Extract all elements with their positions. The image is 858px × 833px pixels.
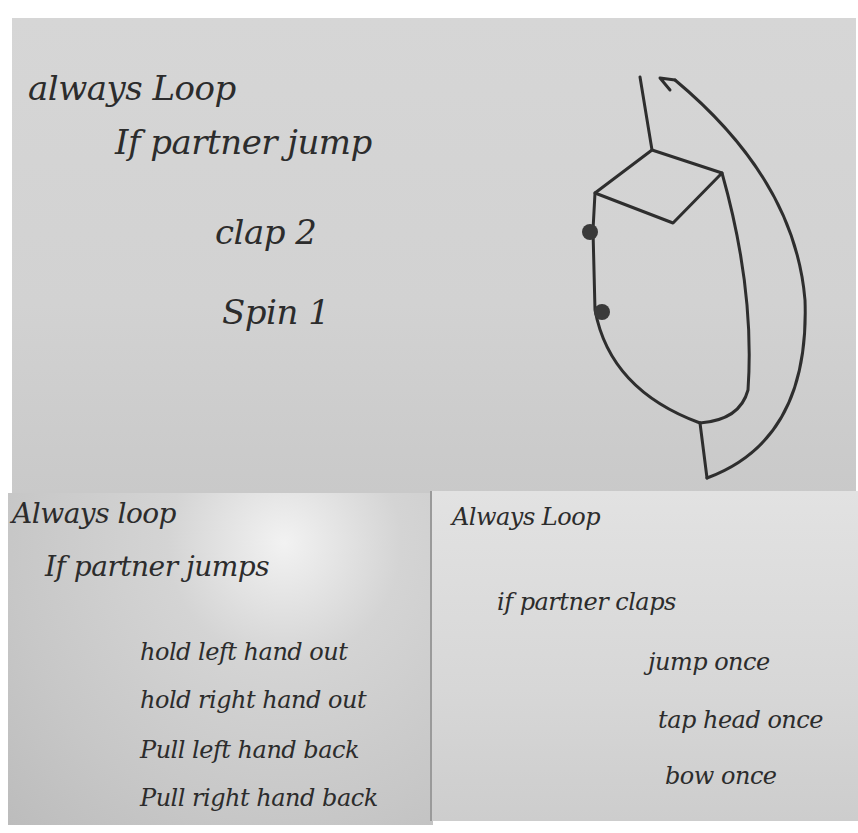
bottom-right-line-4: tap head once	[658, 706, 823, 734]
bottom-left-line-1: Always loop	[12, 497, 176, 530]
bottom-right-line-5: bow once	[665, 762, 777, 790]
bottom-left-line-6: Pull right hand back	[140, 784, 378, 812]
top-note-line-1: always Loop	[28, 68, 236, 108]
bottom-right-line-2: if partner claps	[497, 588, 676, 616]
bottom-right-note	[430, 491, 858, 821]
bottom-left-line-2: If partner jumps	[45, 550, 269, 583]
dot-icon	[594, 304, 610, 320]
bottom-left-line-4: hold right hand out	[140, 686, 366, 714]
top-note-line-3: clap 2	[215, 212, 316, 252]
loop-diagram-icon	[560, 60, 856, 490]
bottom-left-line-5: Pull left hand back	[140, 736, 359, 764]
bottom-left-line-3: hold left hand out	[140, 638, 347, 666]
top-note-line-4: Spin 1	[222, 292, 329, 332]
bottom-right-line-1: Always Loop	[452, 503, 600, 531]
top-note-line-2: If partner jump	[115, 122, 372, 162]
bottom-right-line-3: jump once	[648, 648, 770, 676]
dot-icon	[582, 224, 598, 240]
